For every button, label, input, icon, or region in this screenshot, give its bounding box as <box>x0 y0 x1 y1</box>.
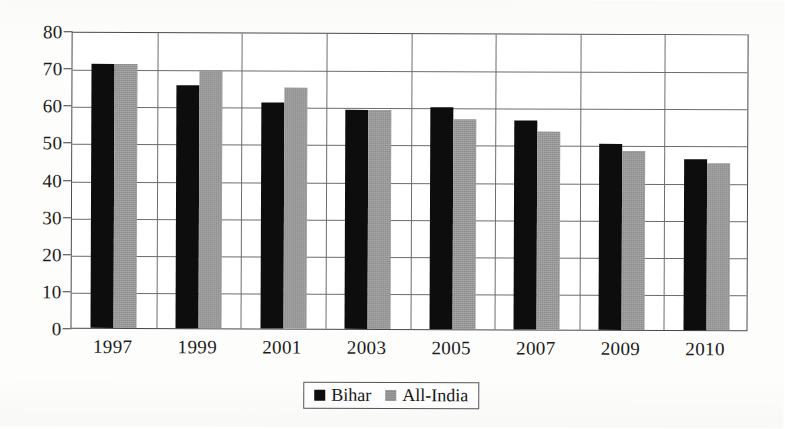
bar-bihar-2001 <box>260 102 284 329</box>
bar-all-india-1997 <box>114 64 138 328</box>
y-axis: 80706050403020100 <box>0 32 63 329</box>
x-tick-label: 2001 <box>262 338 302 357</box>
x-tick-label: 2009 <box>601 339 641 358</box>
plot-area <box>71 32 749 332</box>
y-tick-label: 50 <box>43 134 63 153</box>
gridline-horizontal <box>72 293 747 297</box>
bar-bihar-2003 <box>345 110 369 329</box>
gridline-vertical <box>410 34 412 329</box>
x-tick-label: 2005 <box>431 338 471 357</box>
bar-all-india-1999 <box>198 70 222 328</box>
x-tick-label: 1999 <box>178 337 218 356</box>
gridline-horizontal <box>72 256 747 260</box>
legend-label: All-India <box>402 386 468 404</box>
y-tick-label: 70 <box>43 59 63 78</box>
bar-all-india-2005 <box>452 119 476 329</box>
bar-bihar-2005 <box>429 108 453 330</box>
y-tick-label: 0 <box>52 319 62 338</box>
bar-bihar-1997 <box>91 64 115 328</box>
x-tick-label: 2003 <box>347 338 387 357</box>
y-tick-label: 10 <box>42 282 62 301</box>
bar-all-india-2009 <box>622 151 646 330</box>
gridline-vertical <box>325 34 327 329</box>
y-tick-label: 40 <box>42 171 62 190</box>
gridline-vertical <box>579 35 581 330</box>
y-tick-label: 20 <box>42 245 62 264</box>
legend-entry: Bihar <box>314 386 371 404</box>
black-square-swatch <box>314 389 325 400</box>
legend-label: Bihar <box>331 386 371 404</box>
gridline-vertical <box>664 35 666 330</box>
x-tick-label: 2010 <box>685 339 725 358</box>
chart-canvas: 80706050403020100 1997199920012003200520… <box>0 0 785 429</box>
x-axis: 19971999200120032005200720092010 <box>70 337 747 370</box>
gridline-vertical <box>241 33 243 328</box>
bar-all-india-2010 <box>706 163 730 330</box>
bar-bihar-1999 <box>175 85 199 328</box>
bar-all-india-2007 <box>537 132 561 330</box>
gray-square-swatch <box>385 389 396 400</box>
bar-all-india-2003 <box>368 110 392 329</box>
bar-bihar-2007 <box>514 120 538 329</box>
bar-bihar-2010 <box>683 159 707 330</box>
y-tick-label: 60 <box>43 96 63 115</box>
bar-bihar-2009 <box>599 143 623 329</box>
gridline-vertical <box>495 34 497 329</box>
chart-legend: BiharAll-India <box>303 382 479 410</box>
y-tick-label: 30 <box>42 208 62 227</box>
bar-all-india-2001 <box>283 87 307 328</box>
x-tick-label: 2007 <box>516 338 556 357</box>
legend-entry: All-India <box>385 386 468 404</box>
y-tick-label: 80 <box>43 22 63 41</box>
gridline-vertical <box>156 33 158 328</box>
x-tick-label: 1997 <box>93 337 133 356</box>
